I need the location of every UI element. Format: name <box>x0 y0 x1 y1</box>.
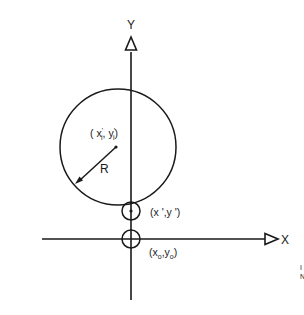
x-axis-label: X <box>281 233 289 247</box>
coordinate-diagram: Y X R ( x'i, y'i) (x ',y ') (xo,yo) I N <box>0 0 304 315</box>
circle-center-label: ( x'i, y'i) <box>90 127 118 141</box>
origin-label: (xo,yo) <box>149 246 177 260</box>
y-axis-arrow-icon <box>126 37 137 50</box>
x-axis-arrow-icon <box>265 234 278 245</box>
margin-mark: N <box>300 273 304 280</box>
radius-label: R <box>100 162 109 176</box>
margin-mark: I <box>300 264 302 271</box>
radius-line <box>79 147 116 181</box>
prime-point-label: (x ',y ') <box>150 206 180 218</box>
prime-point-dot <box>129 209 132 212</box>
y-axis-label: Y <box>127 18 135 32</box>
large-circle <box>60 89 176 205</box>
